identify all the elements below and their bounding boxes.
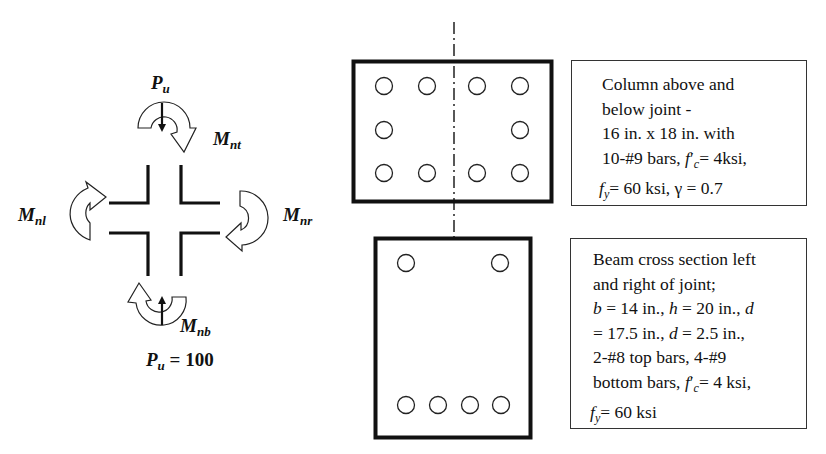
beam-note-line: = 17.5 in., d = 2.5 in.,	[593, 321, 806, 346]
column-note-line: 16 in. x 18 in. with	[602, 121, 806, 146]
joint-outline	[109, 165, 220, 276]
top-rebar-icon	[492, 255, 509, 272]
rebar-icon	[512, 78, 529, 95]
moment-right-arrow-icon	[226, 191, 268, 251]
bottom-rebar-icon	[462, 397, 479, 414]
beam-rebar-group	[398, 255, 510, 414]
beam-note-line: b = 14 in., h = 20 in., d	[593, 296, 806, 321]
beam-note-line: 2-#8 top bars, 4-#9	[593, 345, 806, 370]
beam-note-line: fy= 60 ksi	[590, 400, 806, 431]
rebar-icon	[469, 78, 486, 95]
moment-left-arrow-icon	[70, 182, 106, 240]
beam-note-line: Beam cross section left	[593, 247, 806, 272]
moment-top-arrow-icon	[138, 102, 196, 152]
rebar-icon	[376, 165, 393, 182]
bottom-rebar-icon	[493, 397, 510, 414]
beam-note-line: and right of joint;	[593, 272, 806, 297]
rebar-icon	[512, 165, 529, 182]
beam-cross-section	[376, 239, 531, 438]
beam-note-line: bottom bars, f′c= 4 ksi,	[593, 370, 806, 401]
column-note-line: fy= 60 ksi, γ = 0.7	[599, 176, 806, 207]
bottom-rebar-icon	[430, 397, 447, 414]
rebar-icon	[419, 78, 436, 95]
moment-right-label: Mnr	[283, 205, 312, 227]
axial-load-value-label: Pu = 100	[146, 350, 214, 372]
rebar-icon	[419, 165, 436, 182]
column-cross-section	[354, 62, 552, 202]
moment-bottom-arrow-icon	[128, 283, 186, 325]
column-note-line: below joint -	[602, 97, 806, 122]
moment-top-label: Mnt	[213, 129, 241, 151]
moment-left-label: Mnl	[18, 205, 46, 227]
rebar-icon	[376, 122, 393, 139]
column-description-box: Column above and below joint - 16 in. x …	[571, 60, 807, 206]
rebar-icon	[376, 78, 393, 95]
column-note-line: Column above and	[602, 72, 806, 97]
joint-design-figure: Pu Mnt Mnl Mnr Mnb Pu = 100 Column above…	[0, 0, 826, 454]
top-rebar-icon	[398, 255, 415, 272]
bottom-rebar-icon	[398, 397, 415, 414]
column-rebar-group	[376, 78, 529, 182]
axial-load-top-label: Pu	[151, 73, 170, 95]
rebar-icon	[469, 165, 486, 182]
beam-description-box: Beam cross section left and right of joi…	[570, 238, 807, 429]
moment-bottom-label: Mnb	[180, 316, 211, 338]
rebar-icon	[512, 122, 529, 139]
column-note-line: 10-#9 bars, f′c= 4ksi,	[602, 146, 806, 177]
